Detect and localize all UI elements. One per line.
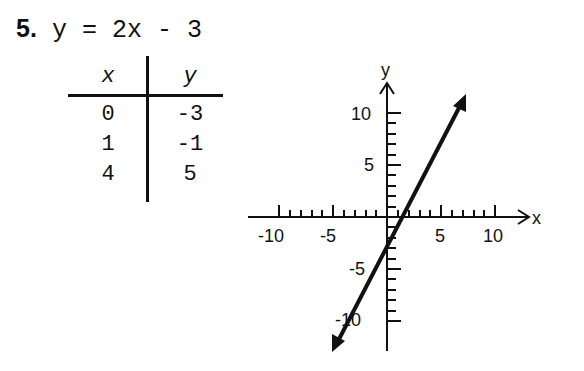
y-axis-label: y <box>381 60 390 80</box>
coordinate-graph: y x -10 -5 5 10 10 5 -5 -10 <box>0 0 584 371</box>
x-tick-label: 5 <box>435 226 445 246</box>
graph-line <box>337 104 461 343</box>
y-tick-label: -5 <box>349 259 365 279</box>
x-tick-label: -10 <box>258 226 284 246</box>
y-tick-label: 5 <box>364 155 374 175</box>
x-tick-label: -5 <box>320 226 336 246</box>
y-tick-label: 10 <box>351 104 371 124</box>
x-axis-label: x <box>532 208 541 228</box>
x-tick-label: 10 <box>483 226 503 246</box>
